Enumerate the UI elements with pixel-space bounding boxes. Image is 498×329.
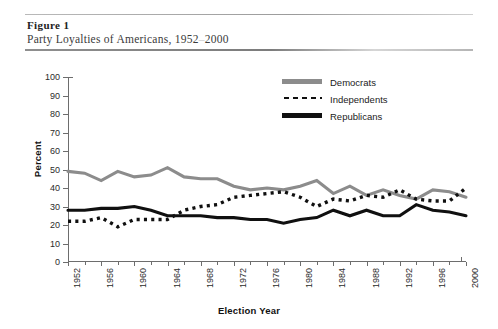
series-line-democrats	[68, 168, 466, 199]
legend-label: Independents	[330, 94, 388, 105]
legend-label: Republicans	[330, 111, 382, 122]
legend-swatch-icon	[282, 113, 322, 118]
x-axis-title: Election Year	[0, 305, 498, 316]
figure-page: Figure 1 Party Loyalties of Americans, 1…	[0, 0, 498, 329]
legend-swatch-icon	[282, 79, 322, 84]
chart-legend: DemocratsIndependentsRepublicans	[330, 72, 388, 123]
legend-item: Democrats	[330, 72, 388, 89]
legend-swatch-icon	[282, 96, 322, 100]
legend-item: Republicans	[330, 106, 388, 123]
legend-item: Independents	[330, 89, 388, 106]
legend-label: Democrats	[330, 77, 376, 88]
chart-series-layer	[0, 0, 498, 329]
series-line-republicans	[68, 205, 466, 224]
